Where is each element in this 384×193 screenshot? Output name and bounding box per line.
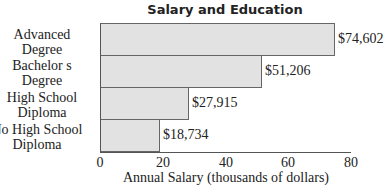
category-label: AdvancedDegree: [0, 27, 92, 57]
bar-no-high-school-diploma: [100, 119, 160, 152]
category-line: Advanced: [14, 27, 71, 42]
x-axis-label: Annual Salary (thousands of dollars): [100, 170, 352, 186]
value-label: $18,734: [163, 127, 209, 143]
x-tick-label: 20: [156, 155, 170, 171]
value-label: $27,915: [192, 95, 238, 111]
chart-title: Salary and Education: [100, 2, 350, 17]
x-tick-label: 0: [97, 155, 104, 171]
x-tick-label: 60: [281, 155, 295, 171]
category-label: No High SchoolDiploma: [0, 122, 92, 152]
category-line: Degree: [22, 42, 62, 57]
y-axis-line: [100, 23, 101, 152]
x-tick-label: 40: [219, 155, 233, 171]
x-tick-label: 80: [344, 155, 358, 171]
category-line: Diploma: [13, 137, 62, 152]
value-label: $51,206: [265, 63, 311, 79]
bar-high-school-diploma: [100, 87, 189, 120]
category-label: Bachelor sDegree: [0, 58, 92, 88]
category-line: Degree: [22, 73, 62, 88]
bar-advanced-degree: [100, 23, 335, 56]
category-line: Diploma: [18, 105, 67, 120]
bar-bachelors-degree: [100, 55, 262, 88]
category-label: High SchoolDiploma: [0, 90, 92, 120]
plot-area: $74,602 $51,206 $27,915 $18,734: [100, 23, 352, 152]
category-line: No High School: [0, 122, 83, 137]
x-axis-line: [100, 152, 351, 153]
value-label: $74,602: [338, 31, 384, 47]
category-line: Bachelor s: [12, 58, 71, 73]
category-line: High School: [7, 90, 77, 105]
